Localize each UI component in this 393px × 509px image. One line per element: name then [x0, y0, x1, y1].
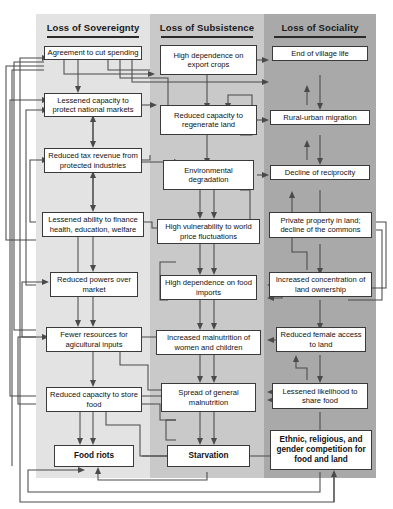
node-reduced-capacity-to-store-food[interactable]: Reduced capacity to store food [46, 387, 142, 412]
node-starvation[interactable]: Starvation [167, 445, 250, 467]
node-reduced-powers-over-market[interactable]: Reduced powers over market [50, 272, 138, 297]
node-reduced-female-access-to-land[interactable]: Reduced female access to land [276, 327, 366, 352]
node-lessened-capacity-protect-national-markets[interactable]: Lessened capacity to protect national ma… [44, 93, 142, 117]
node-reduced-capacity-to-regenerate-land[interactable]: Reduced capacity to regenerate land [160, 105, 257, 135]
node-high-dependence-on-export-crops[interactable]: High dependence on export crops [160, 45, 257, 75]
node-spread-of-general-malnutrition[interactable]: Spread of general malnutrition [161, 383, 256, 412]
node-increased-concentration-land-ownership[interactable]: Increased concentration of land ownershi… [269, 272, 372, 297]
node-rural-urban-migration[interactable]: Rural-urban migration [270, 110, 370, 125]
node-lessened-likelihood-to-share-food[interactable]: Lessened likelihood to share food [272, 383, 368, 409]
node-high-vulnerability-world-price[interactable]: High vulnerability to world price fluctu… [157, 219, 260, 244]
node-ethnic-religious-gender-competition[interactable]: Ethnic, religious, and gender competitio… [270, 430, 372, 470]
node-end-of-village-life[interactable]: End of village life [272, 46, 368, 61]
node-increased-malnutrition-women-children[interactable]: Increased malnutrition of women and chil… [156, 330, 261, 355]
node-environmental-degradation[interactable]: Environmental degradation [163, 160, 254, 190]
flowchart-figure: Loss of Sovereignty Loss of Subsistence … [0, 0, 393, 509]
node-food-riots[interactable]: Food riots [54, 445, 134, 467]
node-high-dependence-on-food-imports[interactable]: High dependence on food imports [160, 275, 257, 300]
node-private-property-in-land[interactable]: Private property in land; decline of the… [269, 212, 372, 238]
node-agreement-to-cut-spending[interactable]: Agreement to cut spending [44, 46, 142, 60]
node-reduced-tax-revenue[interactable]: Reduced tax revenue from protected indus… [44, 148, 142, 173]
node-decline-of-reciprocity[interactable]: Decline of reciprocity [270, 165, 370, 180]
node-lessened-ability-to-finance[interactable]: Lessened ability to finance health, educ… [42, 212, 144, 237]
node-fewer-resources-agricultural-inputs[interactable]: Fewer resources for agicultural inputs [46, 327, 142, 352]
